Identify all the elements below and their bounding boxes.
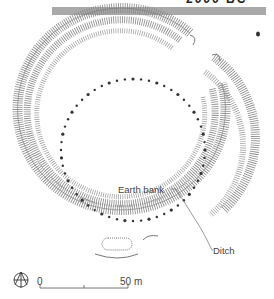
earth-bank-ring [27,20,215,204]
ditch-label: Ditch [213,245,235,256]
compass-north-icon [14,272,28,288]
earth-bank-label: Earth bank [118,184,164,195]
scale-end-label: 50 m [120,276,142,287]
ditch-segment-east [190,35,255,215]
entrance-segments [95,236,158,259]
leader-lines [171,189,213,250]
scale-start-label: 0 [37,276,43,287]
margin-mark [256,31,260,36]
scale-bar [40,284,128,288]
